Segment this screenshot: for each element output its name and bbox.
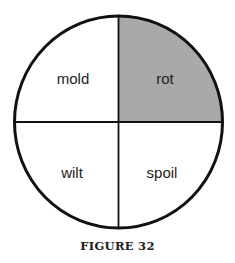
circle-diagram: mold rot wilt spoil xyxy=(0,0,235,263)
quadrant-label-rot: rot xyxy=(156,70,174,87)
quadrant-label-mold: mold xyxy=(57,70,90,87)
quadrant-label-wilt: wilt xyxy=(60,164,83,181)
figure-caption: FIGURE 32 xyxy=(0,239,235,253)
quadrant-label-spoil: spoil xyxy=(147,164,178,181)
